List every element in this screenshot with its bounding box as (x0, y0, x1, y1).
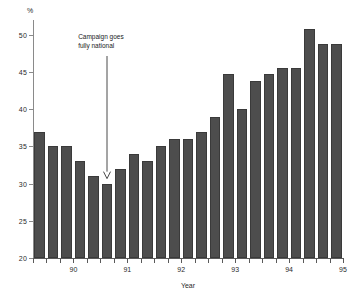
x-axis-tick (73, 258, 74, 263)
annotation-label: Campaign goesfully national (78, 33, 124, 51)
x-axis-title: Year (33, 282, 343, 289)
y-axis-tick-label: 30 (19, 180, 27, 187)
y-axis-tick (29, 109, 33, 110)
x-axis-tick (127, 258, 128, 263)
plot-area: 20253035404550 909192939495 Year Campaig… (33, 20, 343, 258)
x-axis-tick-label: 90 (70, 266, 78, 273)
bar (331, 44, 342, 258)
x-axis-tick (303, 258, 304, 263)
y-axis-tick-label: 50 (19, 31, 27, 38)
bar (48, 146, 59, 258)
bar (88, 176, 99, 258)
x-axis-tick (343, 258, 344, 263)
x-axis-tick (235, 258, 236, 263)
annotation-line-1: Campaign goes (78, 33, 124, 40)
bar (169, 139, 180, 258)
bar (223, 74, 234, 258)
y-axis-tick-label: 25 (19, 217, 27, 224)
x-axis-tick (222, 258, 223, 263)
bar (250, 81, 261, 258)
x-axis-tick (60, 258, 61, 263)
x-axis-tick (168, 258, 169, 263)
bar (237, 109, 248, 258)
bar (304, 29, 315, 258)
x-axis-tick (46, 258, 47, 263)
y-axis-tick (29, 35, 33, 36)
y-axis-tick (29, 72, 33, 73)
bar (318, 44, 329, 258)
x-axis-tick (330, 258, 331, 263)
x-axis-tick (316, 258, 317, 263)
x-axis-tick (181, 258, 182, 263)
x-axis-tick-label: 93 (231, 266, 239, 273)
bar (142, 161, 153, 258)
y-axis-tick (29, 146, 33, 147)
x-axis-line (33, 258, 343, 259)
x-axis-tick-label: 92 (177, 266, 185, 273)
x-axis-tick (276, 258, 277, 263)
annotation-arrow-icon (100, 56, 114, 180)
bar (115, 169, 126, 258)
bar (61, 146, 72, 258)
x-axis-tick (87, 258, 88, 263)
bar (183, 139, 194, 258)
bar (196, 132, 207, 258)
y-axis-tick-label: 35 (19, 143, 27, 150)
bar (129, 154, 140, 258)
y-axis-tick (29, 184, 33, 185)
y-axis-tick (29, 221, 33, 222)
x-axis-tick-label: 91 (123, 266, 131, 273)
bar (264, 74, 275, 258)
x-axis-tick (289, 258, 290, 263)
bar (156, 146, 167, 258)
bar-chart: % 20253035404550 909192939495 Year Campa… (0, 0, 353, 300)
bar (277, 68, 288, 258)
x-axis-tick-label: 95 (339, 266, 347, 273)
bar (75, 161, 86, 258)
x-axis-tick (100, 258, 101, 263)
y-axis-unit-label: % (27, 7, 33, 14)
bar (102, 184, 113, 258)
bar (210, 117, 221, 258)
x-axis-tick-label: 94 (285, 266, 293, 273)
bar (291, 68, 302, 258)
y-axis-tick-label: 45 (19, 69, 27, 76)
x-axis-tick (249, 258, 250, 263)
x-axis-tick (141, 258, 142, 263)
y-axis-tick-label: 40 (19, 106, 27, 113)
x-axis-tick (208, 258, 209, 263)
x-axis-tick (114, 258, 115, 263)
annotation-line-2: fully national (78, 42, 114, 49)
x-axis-tick (262, 258, 263, 263)
x-axis-tick (154, 258, 155, 263)
y-axis-tick-label: 20 (19, 255, 27, 262)
x-axis-tick (195, 258, 196, 263)
x-axis-tick (33, 258, 34, 263)
bar (34, 132, 45, 258)
